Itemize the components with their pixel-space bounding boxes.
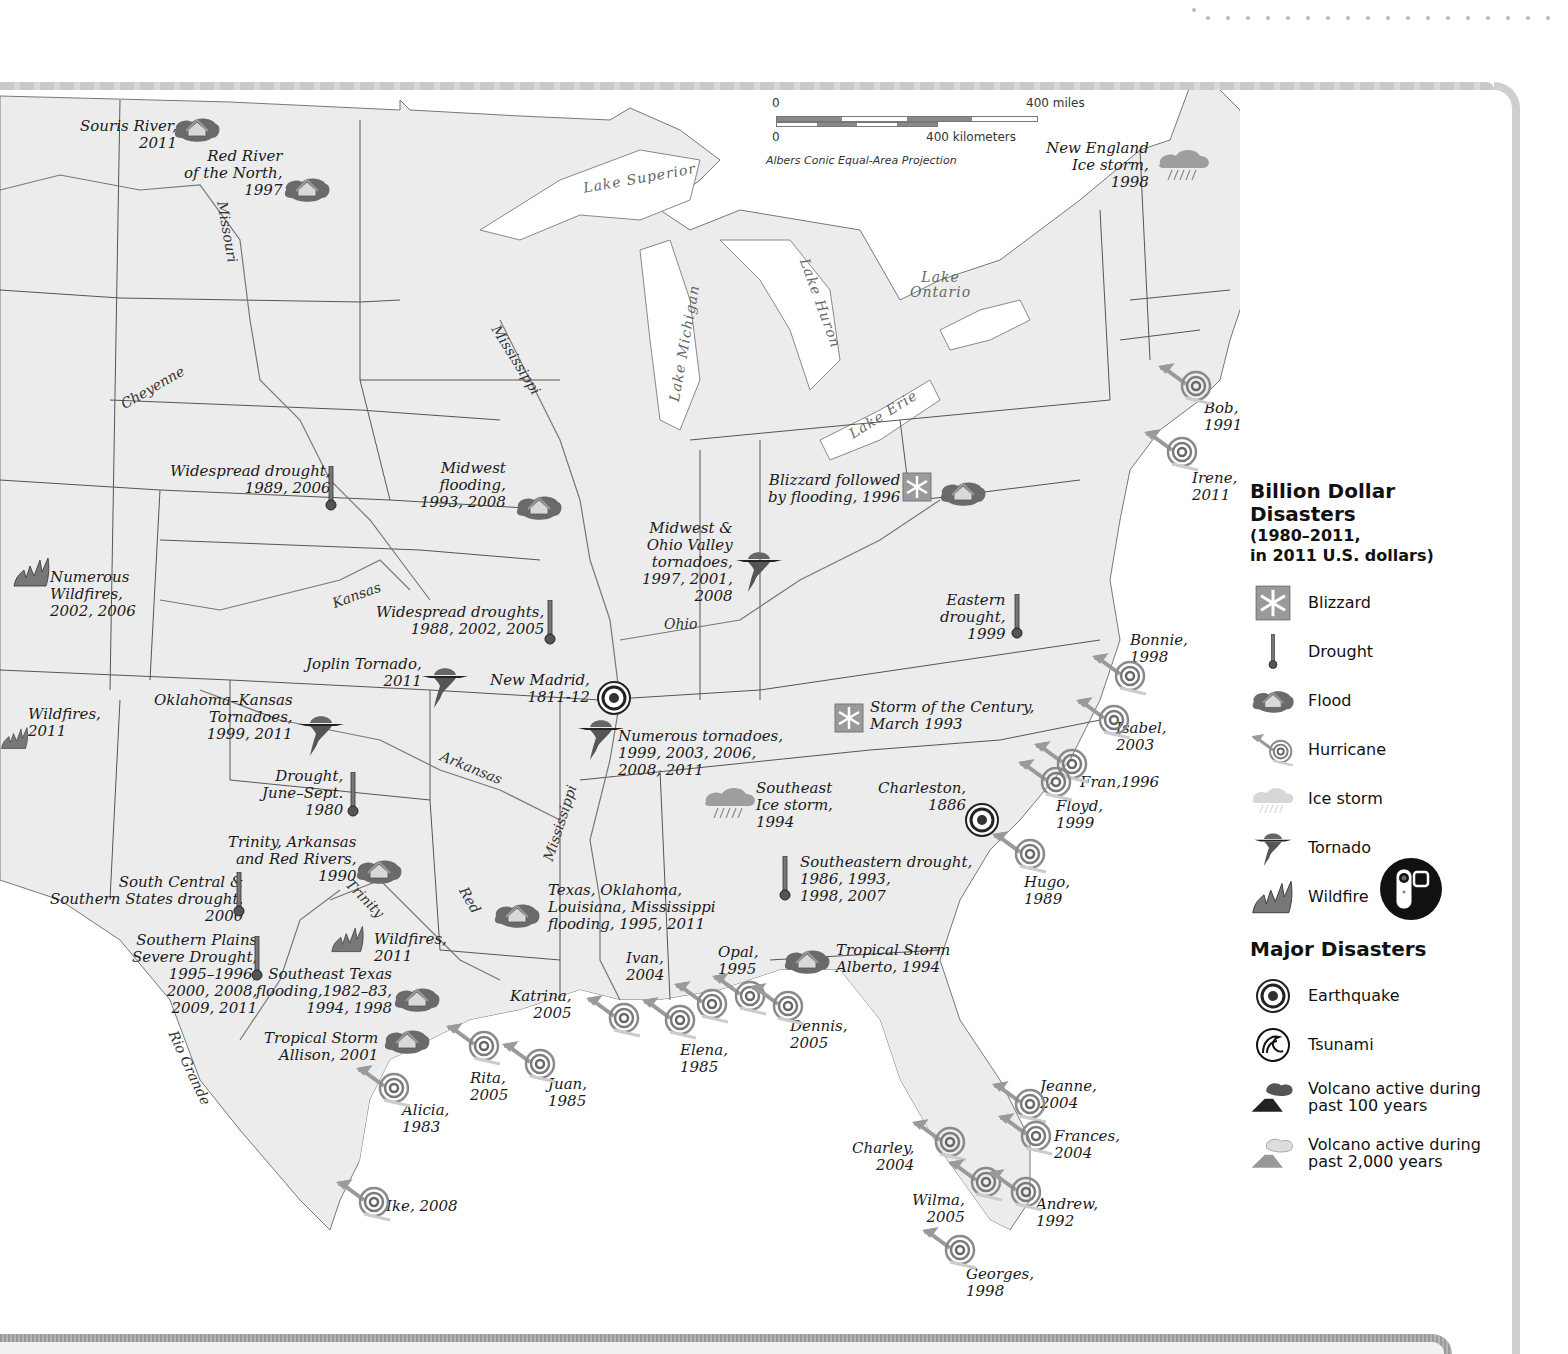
hurricane-icon	[1074, 696, 1134, 740]
scale-miles-zero: 0	[772, 96, 780, 110]
scale-miles-label: 400 miles	[1026, 96, 1085, 110]
event-label-southeast-texas-flooding: Southeast Texas flooding,1982–83, 1994, …	[256, 966, 392, 1017]
hurricane-icon	[1142, 428, 1202, 472]
next-panel-edge	[0, 1334, 1452, 1354]
event-label-ike: Ike, 2008	[386, 1198, 458, 1215]
legend-label: Volcano active during past 2,000 years	[1308, 1136, 1481, 1170]
scale-bar: 0 400 miles 0 400 kilometers Albers Coni…	[770, 96, 1070, 176]
drought-icon	[543, 600, 557, 646]
flood-icon	[382, 1026, 432, 1056]
event-label-trinity-arkansas-red: Trinity, Arkansas and Red Rivers, 1990	[228, 834, 357, 885]
flood-icon	[172, 114, 222, 144]
legend-label: Drought	[1308, 643, 1373, 660]
earthquake-icon	[596, 680, 632, 716]
scale-km-label: 400 kilometers	[926, 130, 1016, 144]
legend-item-hurricane: Hurricane	[1250, 725, 1490, 774]
hurricane-icon	[986, 1168, 1046, 1212]
hurricane-icon	[1156, 362, 1216, 406]
legend-label: Wildfire	[1308, 888, 1369, 905]
event-label-ivan: Ivan, 2004	[626, 950, 664, 984]
legend-item-volcano-2000: Volcano active during past 2,000 years	[1250, 1125, 1490, 1181]
legend-title-line2: Disasters	[1250, 503, 1490, 526]
event-label-souris-river: Souris River, 2011	[80, 118, 177, 152]
tornado-icon	[576, 716, 626, 760]
event-label-new-madrid: New Madrid, 1811-12	[490, 672, 590, 706]
hurricane-icon	[1016, 758, 1076, 802]
river-label-ohio: Ohio	[664, 616, 697, 632]
tornado-icon	[1250, 830, 1296, 866]
hurricane-icon	[500, 1040, 560, 1084]
event-label-katrina: Katrina, 2005	[510, 988, 572, 1022]
event-label-tropical-storm-allison: Tropical Storm Allison, 2001	[264, 1030, 378, 1064]
legend-item-blizzard: Blizzard	[1250, 578, 1490, 627]
hurricane-icon	[1090, 652, 1150, 696]
blizzard-icon	[1250, 585, 1296, 621]
ice-storm-icon	[702, 784, 758, 818]
event-label-blizzard-flooding-1996: Blizzard followed by flooding, 1996	[768, 472, 900, 506]
event-label-hugo: Hugo, 1989	[1024, 874, 1070, 908]
event-label-midwest-ohio-tornadoes: Midwest & Ohio Valley tornadoes, 1997, 2…	[642, 520, 733, 605]
wildfire-icon	[1250, 879, 1296, 915]
legend-label: Flood	[1308, 692, 1351, 709]
event-label-eastern-drought: Eastern drought, 1999	[940, 592, 1006, 643]
video-camera-icon	[1380, 858, 1442, 920]
legend-subtitle: (1980–2011, in 2011 U.S. dollars)	[1250, 526, 1490, 566]
legend-label: Earthquake	[1308, 987, 1400, 1004]
event-label-numerous-tornadoes: Numerous tornadoes, 1999, 2003, 2006, 20…	[618, 728, 783, 779]
lake-label-ontario: Lake Ontario	[910, 270, 971, 300]
wildfire-icon	[0, 722, 30, 754]
legend-item-tornado: Tornado	[1250, 823, 1490, 872]
volcano-100-icon	[1250, 1079, 1296, 1115]
scale-km-zero: 0	[772, 130, 780, 144]
event-label-southern-plains-drought: Southern Plains Severe Drought, 1995–199…	[132, 932, 257, 1017]
event-label-midwest-flooding: Midwest flooding, 1993, 2008	[420, 460, 506, 511]
hurricane-icon	[1250, 732, 1296, 768]
scale-km-bar	[776, 122, 938, 127]
event-label-floyd: Floyd, 1999	[1056, 798, 1103, 832]
flood-icon	[282, 174, 332, 204]
legend-label: Ice storm	[1308, 790, 1383, 807]
legend-item-tsunami: Tsunami	[1250, 1020, 1490, 1069]
video-camera-button[interactable]	[1380, 858, 1442, 920]
hurricane-icon	[584, 994, 644, 1038]
event-label-widespread-drought-1989: Widespread drought, 1989, 2006	[170, 463, 331, 497]
event-label-wildfires-2011-texas: Wildfires, 2011	[374, 931, 447, 965]
legend-item-wildfire: Wildfire	[1250, 872, 1490, 921]
event-label-joplin-tornado: Joplin Tornado, 2011	[306, 656, 422, 690]
tornado-icon	[420, 664, 470, 708]
drought-icon	[232, 872, 246, 918]
legend-item-drought: Drought	[1250, 627, 1490, 676]
legend-item-flood: Flood	[1250, 676, 1490, 725]
legend: Billion Dollar Disasters (1980–2011, in …	[1250, 480, 1490, 1181]
legend-label: Blizzard	[1308, 594, 1371, 611]
event-label-storm-of-the-century: Storm of the Century, March 1993	[870, 699, 1034, 733]
drought-icon	[346, 772, 360, 818]
flood-icon	[1250, 683, 1296, 719]
legend-item-volcano-100: Volcano active during past 100 years	[1250, 1069, 1490, 1125]
event-label-red-river-north: Red River of the North, 1997	[184, 148, 282, 199]
map-frame-top	[0, 82, 1494, 90]
map-frame-right	[1494, 82, 1520, 1354]
legend-label: Hurricane	[1308, 741, 1386, 758]
legend-major-title: Major Disasters	[1250, 937, 1490, 961]
projection-note: Albers Conic Equal-Area Projection	[766, 154, 957, 167]
legend-title-line1: Billion Dollar	[1250, 480, 1490, 503]
event-label-oklahoma-kansas-tornadoes: Oklahoma–Kansas Tornadoes, 1999, 2011	[154, 692, 293, 743]
drought-icon	[1010, 594, 1024, 640]
ice-storm-icon	[1250, 781, 1296, 817]
event-label-frances: Frances, 2004	[1054, 1128, 1120, 1162]
hurricane-icon	[748, 982, 808, 1026]
hurricane-icon	[910, 1118, 970, 1162]
legend-item-ice-storm: Ice storm	[1250, 774, 1490, 823]
hurricane-icon	[444, 1022, 504, 1066]
decorative-dot-row	[1188, 6, 1568, 26]
hurricane-icon	[920, 1226, 980, 1270]
flood-icon	[782, 946, 832, 976]
event-label-new-england-ice-storm: New England Ice storm, 1998	[1046, 140, 1149, 191]
event-label-drought-1980: Drought, June–Sept. 1980	[262, 768, 343, 819]
legend-label: Tsunami	[1308, 1036, 1374, 1053]
hurricane-icon	[334, 1178, 394, 1222]
flood-icon	[392, 984, 442, 1014]
wildfire-icon	[12, 556, 52, 588]
blizzard-icon	[834, 703, 864, 733]
